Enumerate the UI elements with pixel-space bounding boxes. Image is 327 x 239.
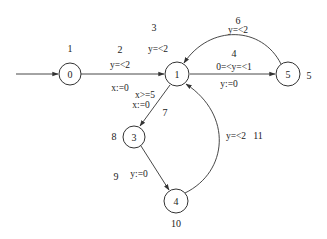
state-5-label: 5	[286, 69, 291, 80]
edge-4-to-1	[185, 84, 219, 193]
edge-3-4-reset: y:=0	[130, 169, 148, 179]
edge-3-to-4	[141, 146, 169, 190]
edge-4-1-guard: y=<2	[226, 131, 246, 141]
edge-1-3-reset: x:=0	[132, 100, 150, 110]
edge-5-1-guard: y=<2	[228, 25, 248, 35]
edge-0-1-reset: x:=0	[111, 83, 129, 93]
edge-0-1-guard: y=<2	[110, 60, 130, 70]
state-3-annotation: 8	[112, 131, 117, 142]
edge-1-5-guard: 0=<y=<1	[216, 62, 252, 72]
edge-4-1-number: 11	[253, 130, 263, 141]
state-1-annotation: 3	[152, 22, 157, 33]
edge-1-5-reset: y:=0	[220, 79, 238, 89]
state-3: 3	[123, 126, 145, 148]
state-1-invariant: y=<2	[148, 44, 168, 54]
state-0: 0	[59, 63, 81, 85]
state-4: 4	[164, 189, 188, 213]
timed-automaton-diagram: 0 1 5 3 4 1 3 5 8 10 y=<2 2 y=<2 x:=0 4 …	[0, 0, 327, 239]
state-4-annotation: 10	[171, 218, 181, 229]
state-4-label: 4	[174, 196, 179, 207]
state-0-annotation: 1	[68, 43, 73, 54]
edge-3-4-number: 9	[114, 171, 119, 182]
edge-1-5-number: 4	[232, 48, 237, 59]
edge-1-3-number: 7	[163, 107, 168, 118]
state-0-label: 0	[68, 69, 73, 80]
edge-1-3-guard: x>=5	[135, 90, 155, 100]
state-5-annotation: 5	[307, 70, 312, 81]
state-1: 1	[165, 62, 189, 86]
state-1-label: 1	[175, 69, 180, 80]
state-3-label: 3	[132, 132, 137, 143]
edge-0-1-number: 2	[118, 44, 123, 55]
state-5: 5	[276, 62, 300, 86]
